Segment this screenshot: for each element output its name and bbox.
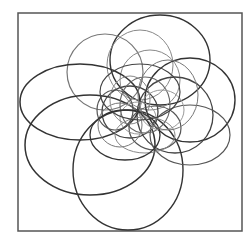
ellipse-9: [150, 105, 230, 165]
ellipse-figure: [0, 0, 248, 245]
ellipse-8: [73, 110, 183, 230]
ellipse-0: [110, 15, 210, 105]
ellipse-group: [20, 15, 235, 230]
